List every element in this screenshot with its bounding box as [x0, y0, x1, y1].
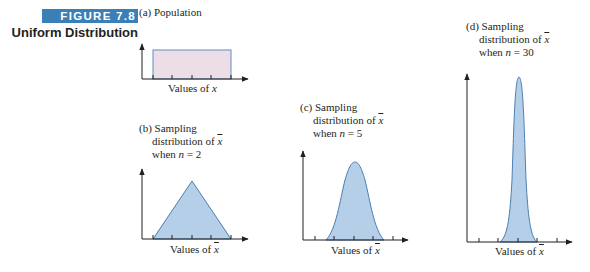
bell-density-area: [326, 162, 384, 240]
x-ticks: [479, 238, 557, 242]
panel-c-xlabel: Values of x: [331, 244, 380, 256]
panel-d-chart: [467, 74, 572, 242]
panel-a-chart: [142, 44, 248, 79]
panel-b-chart: [142, 169, 248, 239]
narrow-bell-density-area: [500, 77, 537, 242]
figure-graphics: [0, 0, 590, 272]
uniform-density-area: [153, 50, 231, 79]
panel-c-chart: [303, 151, 408, 240]
triangular-density-area: [153, 181, 231, 239]
panel-a-xlabel: Values of x: [168, 82, 217, 94]
panel-d-xlabel: Values of x: [495, 245, 544, 257]
panel-b-xlabel: Values of x: [170, 243, 219, 255]
